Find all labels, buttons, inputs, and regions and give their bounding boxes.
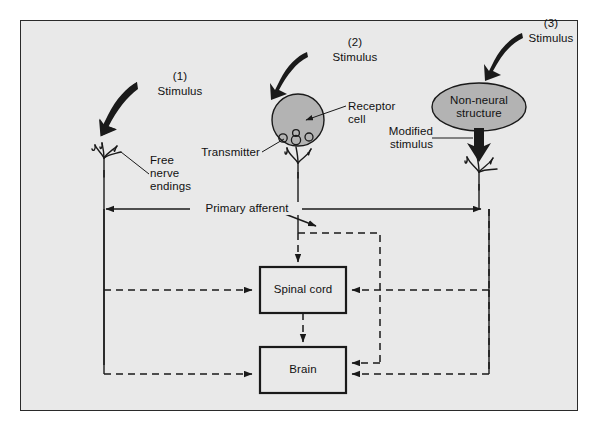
pathway-1-stimulus-label: Stimulus <box>145 85 215 98</box>
pathway-3-stimulus-label: Stimulus <box>516 32 586 45</box>
stimulus-arrow-1-icon <box>99 82 138 137</box>
primary-afferent-label: Primary afferent <box>192 202 302 215</box>
spinal-cord-label: Spinal cord <box>260 283 346 296</box>
non-neural-structure-label: Non-neural structure <box>434 94 524 120</box>
pathway-3-number: (3) <box>521 17 581 30</box>
transmitter-label: Transmitter <box>182 146 260 159</box>
pathway-1-number: (1) <box>150 70 210 83</box>
receptor-cell-label: Receptor cell <box>348 100 418 126</box>
nerve-ending-branches-1 <box>92 143 121 177</box>
pathway-2-stimulus-label: Stimulus <box>320 51 390 64</box>
free-nerve-endings-label: Free nerve endings <box>150 154 212 193</box>
pathway-2-number: (2) <box>325 36 385 49</box>
figure-canvas: (1) Stimulus Free nerve endings (2) Stim… <box>0 0 600 429</box>
transmitter-leader <box>262 139 284 152</box>
free-nerve-endings-group <box>92 82 149 365</box>
modified-stimulus-arrow-icon <box>467 128 491 162</box>
non-neural-structure-group <box>432 33 526 209</box>
brain-label: Brain <box>260 363 346 376</box>
nerve-ending-branches-3 <box>465 156 497 190</box>
stimulus-arrow-2-icon <box>270 52 308 100</box>
modified-stimulus-label: Modified stimulus <box>355 125 433 151</box>
free-nerve-leader <box>121 152 149 174</box>
receptor-cell-body <box>272 94 324 146</box>
